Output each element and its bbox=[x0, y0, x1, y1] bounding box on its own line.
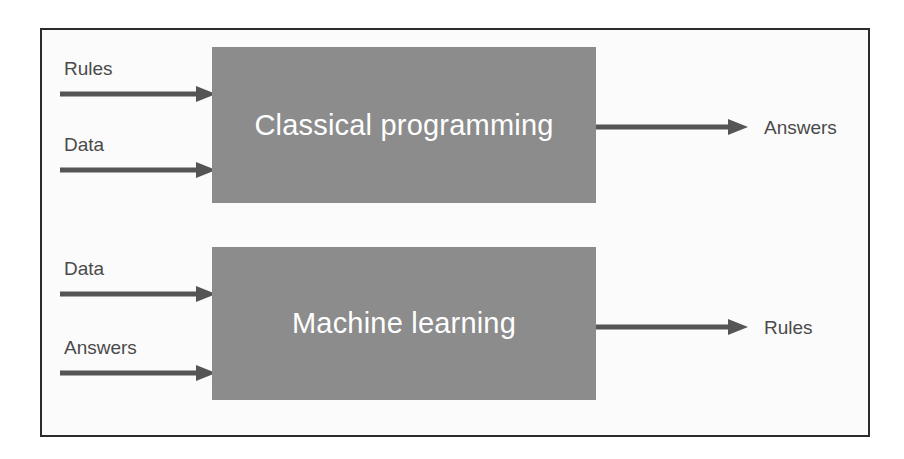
output-label-rules-ml: Rules bbox=[764, 317, 813, 339]
diagram-frame: Rules Data Classical programming bbox=[40, 28, 870, 437]
input-arrow-answers-ml bbox=[60, 364, 216, 382]
process-box-label-classical-programming: Classical programming bbox=[254, 109, 553, 142]
input-label-data-classical: Data bbox=[64, 134, 104, 156]
input-label-rules-classical: Rules bbox=[64, 58, 113, 80]
input-label-answers-ml: Answers bbox=[64, 337, 137, 359]
input-label-data-ml: Data bbox=[64, 258, 104, 280]
diagram-canvas: Rules Data Classical programming bbox=[0, 0, 904, 459]
input-arrow-rules-classical bbox=[60, 85, 216, 103]
input-arrow-data-ml bbox=[60, 285, 216, 303]
output-label-answers-classical: Answers bbox=[764, 117, 837, 139]
process-box-machine-learning: Machine learning bbox=[212, 247, 596, 400]
process-box-label-machine-learning: Machine learning bbox=[292, 307, 516, 340]
output-arrow-rules-ml bbox=[596, 318, 748, 336]
input-arrow-data-classical bbox=[60, 161, 216, 179]
process-box-classical-programming: Classical programming bbox=[212, 47, 596, 203]
output-arrow-answers-classical bbox=[596, 118, 748, 136]
